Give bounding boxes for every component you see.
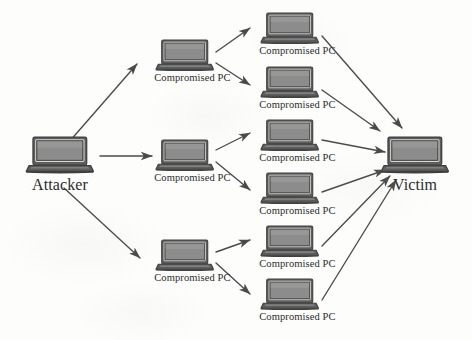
node-label-tier2-5: Compromised PC [259,258,320,270]
node-label-tier1-3: Compromised PC [154,272,215,284]
node-label-tier2-1: Compromised PC [259,45,320,57]
laptop-icon [259,66,320,99]
compromised-pc-laptop-icon [259,278,320,311]
compromised-pc-laptop-icon [259,225,320,258]
node-tier2-4: Compromised PC [259,172,320,218]
victim-laptop-icon [379,136,451,174]
node-attacker: Attacker [24,136,96,194]
compromised-pc-laptop-icon [154,39,215,72]
laptop-icon [24,136,96,174]
botnet-topology-diagram: Attacker Compromised PC Compromised PC [0,0,472,340]
laptop-icon [259,119,320,152]
compromised-pc-laptop-icon [259,119,320,152]
arrow-tier2-2-to-victim [322,90,380,131]
arrow-tier2-6-to-victim [322,180,396,300]
laptop-icon [259,172,320,205]
edges-group [62,28,402,300]
node-tier2-6: Compromised PC [259,278,320,324]
arrow-tier2-3-to-victim [322,140,385,152]
arrow-tier1-1-to-tier2-1 [216,28,250,52]
compromised-pc-laptop-icon [154,239,215,272]
laptop-icon [154,39,215,72]
node-tier2-3: Compromised PC [259,119,320,165]
laptop-icon [154,139,215,172]
laptop-icon [259,278,320,311]
node-tier2-1: Compromised PC [259,12,320,58]
node-label-victim: Victim [379,176,451,194]
node-label-tier2-3: Compromised PC [259,152,320,164]
node-label-tier2-4: Compromised PC [259,205,320,217]
node-label-tier2-6: Compromised PC [259,311,320,323]
node-tier2-5: Compromised PC [259,225,320,271]
node-tier1-3: Compromised PC [154,239,215,285]
arrow-tier1-3-to-tier2-5 [216,240,250,252]
node-tier1-2: Compromised PC [154,139,215,185]
compromised-pc-laptop-icon [259,172,320,205]
arrow-tier1-2-to-tier2-3 [216,133,250,150]
node-label-tier1-2: Compromised PC [154,172,215,184]
node-label-attacker: Attacker [24,176,96,194]
arrow-tier2-4-to-victim [322,170,385,192]
laptop-icon [259,225,320,258]
node-victim: Victim [379,136,451,194]
compromised-pc-laptop-icon [259,66,320,99]
node-label-tier2-2: Compromised PC [259,99,320,111]
node-tier1-1: Compromised PC [154,39,215,85]
arrow-attacker-to-tier1-3 [64,188,140,258]
node-tier2-2: Compromised PC [259,66,320,112]
compromised-pc-laptop-icon [259,12,320,45]
laptop-icon [154,239,215,272]
compromised-pc-laptop-icon [154,139,215,172]
node-label-tier1-1: Compromised PC [154,72,215,84]
laptop-icon [379,136,451,174]
attacker-laptop-icon [24,136,96,174]
laptop-icon [259,12,320,45]
